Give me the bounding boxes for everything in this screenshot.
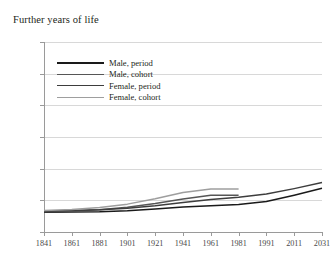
legend-item[interactable]: Female, cohort [57,92,161,104]
x-tick-mark [155,232,156,236]
legend-swatch [57,85,104,86]
x-tick-mark [266,232,267,236]
legend-swatch [57,74,104,75]
x-tick-mark [100,232,101,236]
legend-label: Female, period [109,81,161,91]
legend-item[interactable]: Male, cohort [57,69,161,81]
legend-label: Male, period [109,58,153,68]
x-tick-mark [322,232,323,236]
legend-item[interactable]: Female, period [57,80,161,92]
legend-label: Male, cohort [109,69,153,79]
x-tick-mark [183,232,184,236]
legend-swatch [57,97,104,98]
page-title: Further years of life [13,14,99,25]
x-tick-mark [127,232,128,236]
legend-label: Female, cohort [109,92,161,102]
x-tick-label: 2031 [302,239,335,248]
legend-item[interactable]: Male, period [57,57,161,69]
x-tick-mark [211,232,212,236]
legend-swatch [57,62,104,64]
x-tick-mark [44,232,45,236]
x-tick-mark [294,232,295,236]
chart-container: Further years of life 0102030405060 1841… [0,0,335,271]
x-tick-mark [239,232,240,236]
x-tick-mark [72,232,73,236]
legend: Male, periodMale, cohortFemale, periodFe… [57,57,161,103]
